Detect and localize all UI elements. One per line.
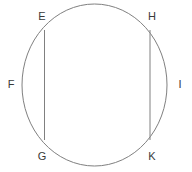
vertex-label-f: F: [8, 79, 15, 90]
circle-outline: [22, 4, 167, 166]
figure-canvas: [0, 0, 192, 172]
geometry-figure: E H F I G K: [0, 0, 192, 172]
vertex-label-i: I: [178, 79, 181, 90]
vertex-label-k: K: [148, 151, 155, 162]
vertex-label-e: E: [38, 11, 45, 22]
vertex-label-g: G: [38, 151, 47, 162]
vertex-label-h: H: [148, 11, 156, 22]
